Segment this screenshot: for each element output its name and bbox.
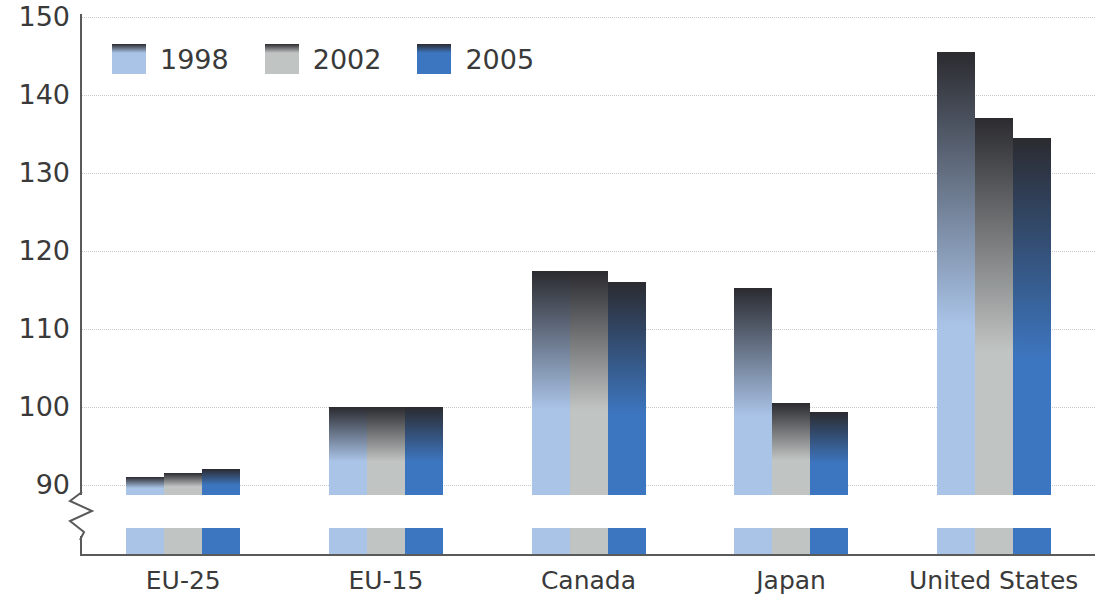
x-axis-tick-label: EU-25 (82, 566, 285, 595)
legend-item-2002[interactable]: 2002 (265, 44, 382, 74)
x-axis-tick-label: Canada (487, 566, 690, 595)
bar-stub-canada-2005[interactable] (608, 528, 646, 554)
legend-swatch-1998 (112, 44, 146, 74)
bar-stub-japan-2002[interactable] (772, 528, 810, 554)
bar-chart: 15014013012011010090 EU-25EU-15CanadaJap… (0, 0, 1103, 603)
bar-canada-1998[interactable] (532, 271, 570, 496)
bar-stub-japan-1998[interactable] (734, 528, 772, 554)
bar-canada-2005[interactable] (608, 282, 646, 495)
bar-eu-15-1998[interactable] (329, 407, 367, 495)
bar-group (532, 0, 646, 603)
bar-eu-25-1998[interactable] (126, 477, 164, 495)
legend-item-2005[interactable]: 2005 (417, 44, 534, 74)
bar-stub-eu-15-2005[interactable] (405, 528, 443, 554)
bar-eu-25-2002[interactable] (164, 473, 202, 495)
y-axis-tick-label: 100 (0, 393, 70, 420)
plot-area (82, 0, 1095, 603)
bar-stub-eu-25-2002[interactable] (164, 528, 202, 554)
bar-canada-2002[interactable] (570, 271, 608, 496)
legend-swatch-2005 (417, 44, 451, 74)
legend-label: 2005 (465, 46, 534, 73)
y-axis-tick-label: 130 (0, 159, 70, 186)
bar-eu-25-2005[interactable] (202, 469, 240, 495)
x-axis-tick-label: United States (892, 566, 1095, 595)
y-axis-tick-label: 120 (0, 237, 70, 264)
bar-stub-united-states-1998[interactable] (937, 528, 975, 554)
bar-stub-eu-15-2002[interactable] (367, 528, 405, 554)
legend-item-1998[interactable]: 1998 (112, 44, 229, 74)
legend-label: 1998 (160, 46, 229, 73)
bar-group (126, 0, 240, 603)
chart-legend: 199820022005 (112, 44, 570, 74)
y-axis-tick-label: 140 (0, 81, 70, 108)
bar-united-states-2005[interactable] (1013, 138, 1051, 495)
bar-eu-15-2005[interactable] (405, 407, 443, 495)
bar-group (937, 0, 1051, 603)
y-axis-tick-label: 90 (0, 471, 70, 498)
bar-japan-1998[interactable] (734, 288, 772, 495)
bar-united-states-1998[interactable] (937, 52, 975, 495)
bar-stub-eu-25-1998[interactable] (126, 528, 164, 554)
bar-stub-eu-15-1998[interactable] (329, 528, 367, 554)
y-axis-tick-label: 150 (0, 3, 70, 30)
legend-label: 2002 (313, 46, 382, 73)
bar-stub-eu-25-2005[interactable] (202, 528, 240, 554)
bar-group (329, 0, 443, 603)
legend-swatch-2002 (265, 44, 299, 74)
bar-stub-united-states-2005[interactable] (1013, 528, 1051, 554)
x-axis-tick-label: Japan (690, 566, 893, 595)
bar-group (734, 0, 848, 603)
bar-stub-united-states-2002[interactable] (975, 528, 1013, 554)
bar-united-states-2002[interactable] (975, 118, 1013, 495)
bar-stub-canada-2002[interactable] (570, 528, 608, 554)
y-axis-tick-label: 110 (0, 315, 70, 342)
x-axis-tick-label: EU-15 (285, 566, 488, 595)
bar-japan-2002[interactable] (772, 403, 810, 495)
bar-japan-2005[interactable] (810, 412, 848, 495)
bar-stub-canada-1998[interactable] (532, 528, 570, 554)
bar-eu-15-2002[interactable] (367, 407, 405, 495)
bar-stub-japan-2005[interactable] (810, 528, 848, 554)
